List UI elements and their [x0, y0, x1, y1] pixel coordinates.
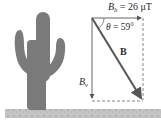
b-vector-label: B [120, 47, 127, 57]
theta-label: θ = 59° [106, 23, 134, 33]
diagram: Bh = 26 μT θ = 59° B Bv [0, 0, 161, 123]
theta-arc [98, 18, 104, 28]
cactus-icon [15, 12, 65, 110]
ground [5, 109, 161, 118]
bh-label: Bh = 26 μT [108, 2, 152, 14]
bv-label: Bv [79, 77, 88, 89]
diagram-canvas [0, 0, 161, 123]
